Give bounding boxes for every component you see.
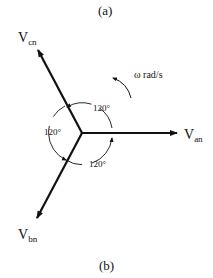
angle-label-an-cn: 120° xyxy=(93,103,110,113)
caption-b: (b) xyxy=(99,258,114,274)
rotation-arrow xyxy=(113,78,131,98)
angle-label-cn-bn: 120° xyxy=(44,127,61,137)
label-vcn: Vcn xyxy=(18,30,37,47)
phasor-vcn-arrow xyxy=(38,50,82,133)
angle-label-bn-an: 120° xyxy=(89,159,106,169)
rotation-label: ω rad/s xyxy=(134,69,163,80)
label-van: Van xyxy=(184,127,203,144)
label-vbn: Vbn xyxy=(18,227,37,244)
phasor-diagram: (a) Vcn Van Vbn 120° 120° 120° ω rad/s (… xyxy=(0,0,213,278)
phasor-vbn-arrow xyxy=(37,133,82,218)
